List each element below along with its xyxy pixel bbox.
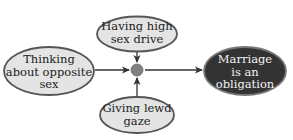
node-marriage-line-3: obligation [216, 77, 275, 91]
node-high-sex-drive-line-1: Having high [101, 19, 173, 33]
node-thinking-about-opposite-sex: Thinking about opposite sex [4, 47, 94, 95]
node-thinking-line-3: sex [39, 77, 59, 91]
node-giving-lewd-gaze-line-2: gaze [123, 114, 150, 128]
diagram-canvas: Having high sex drive Thinking about opp… [0, 0, 293, 140]
node-giving-lewd-gaze-line-1: Giving lewd [102, 101, 172, 115]
node-giving-lewd-gaze: Giving lewd gaze [100, 97, 174, 133]
node-marriage-line-1: Marriage [218, 52, 273, 66]
junction-node [131, 64, 143, 76]
node-thinking-line-1: Thinking [23, 52, 75, 66]
node-marriage-is-an-obligation: Marriage is an obligation [204, 47, 286, 95]
node-high-sex-drive: Having high sex drive [97, 17, 177, 52]
node-high-sex-drive-line-2: sex drive [111, 32, 164, 46]
